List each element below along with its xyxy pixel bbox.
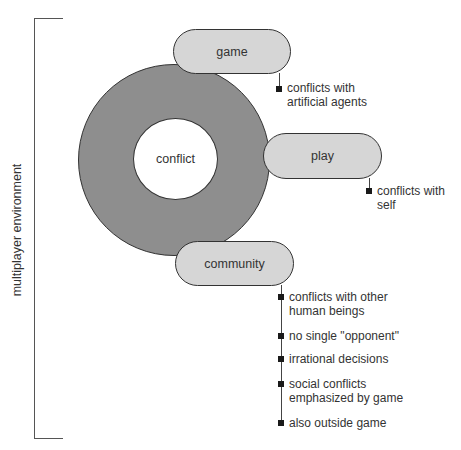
conflict-center: conflict (133, 118, 218, 200)
node-play-label: play (311, 149, 334, 163)
node-community-label: community (204, 257, 264, 271)
community-note: no single "opponent" (289, 329, 399, 343)
community-connector (281, 285, 282, 425)
community-note-bullet (278, 333, 284, 339)
community-note: social conflicts emphasized by game (289, 377, 403, 405)
community-note-bullet (278, 420, 284, 426)
environment-bracket (34, 18, 63, 439)
community-note: conflicts with other human beings (289, 290, 388, 318)
node-game: game (173, 29, 291, 74)
game-note-bullet (276, 86, 282, 92)
node-play: play (263, 133, 382, 179)
community-note-bullet (278, 294, 284, 300)
community-note-bullet (278, 381, 284, 387)
diagram-canvas: multiplayer environment conflict game co… (0, 0, 461, 450)
community-note-bullet (278, 356, 284, 362)
node-community: community (175, 241, 294, 286)
play-note-bullet (366, 188, 372, 194)
community-note: also outside game (289, 416, 386, 430)
node-game-label: game (216, 45, 247, 59)
environment-label: multiplayer environment (10, 164, 24, 297)
conflict-label: conflict (156, 152, 195, 166)
community-note: irrational decisions (289, 352, 388, 366)
play-note: conflicts with self (377, 184, 445, 212)
game-note: conflicts with artificial agents (287, 81, 367, 109)
